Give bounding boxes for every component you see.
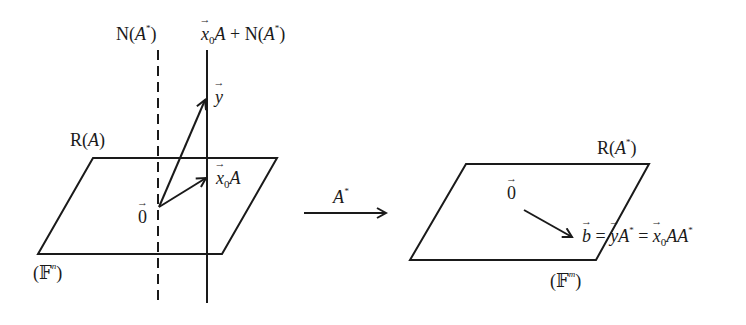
left-plane <box>38 158 277 254</box>
y-label: y <box>215 87 223 108</box>
y-vector <box>159 100 205 207</box>
diagram-canvas <box>0 0 746 325</box>
b-equation: b = yA* = x0AA* <box>582 226 693 247</box>
range-Astar-label: R(A*) <box>597 138 637 159</box>
null-space-label: N(A*) <box>116 24 157 45</box>
origin-right-label: 0 <box>507 183 516 204</box>
mapping-label: A* <box>333 187 349 208</box>
x0A-label: x0A <box>216 168 241 189</box>
origin-left-label: 0 <box>138 207 147 228</box>
space-Fm-label: (𝔽m) <box>550 270 581 292</box>
range-A-label: R(A) <box>70 130 105 151</box>
b-vector <box>524 210 572 237</box>
space-Fn-label: (𝔽n) <box>33 262 62 284</box>
affine-line-label: x0A + N(A*) <box>201 24 285 45</box>
